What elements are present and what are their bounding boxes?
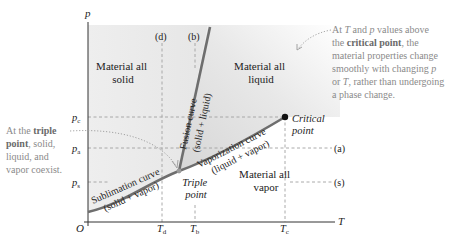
pa-tick-label: pa <box>71 143 81 156</box>
origin-label: O <box>76 222 84 234</box>
td-tick-label: Td <box>157 223 167 234</box>
phase-diagram: p T O pc pa ps Td Tb Tc (d) (b) (a) (s) … <box>0 0 452 234</box>
tb-tick-label: Tb <box>190 223 200 234</box>
y-axis-label: p <box>84 7 91 19</box>
pc-tick-label: pc <box>71 112 80 125</box>
marker-d: (d) <box>155 31 167 43</box>
triple-point-note: At the triple point, solid, liquid, and … <box>6 125 62 175</box>
tc-tick-label: Tc <box>280 223 289 234</box>
marker-s: (s) <box>334 177 345 189</box>
critical-point-label: Critical point <box>291 113 327 136</box>
critical-point-note: At T and p values above the critical poi… <box>332 24 447 100</box>
ps-tick-label: ps <box>71 177 80 190</box>
triple-point-marker <box>177 169 182 174</box>
marker-a: (a) <box>334 143 345 155</box>
triple-point-label: Triple point <box>182 177 210 200</box>
critical-point-marker <box>282 114 288 120</box>
marker-b: (b) <box>188 31 200 43</box>
x-axis-label: T <box>338 215 345 227</box>
